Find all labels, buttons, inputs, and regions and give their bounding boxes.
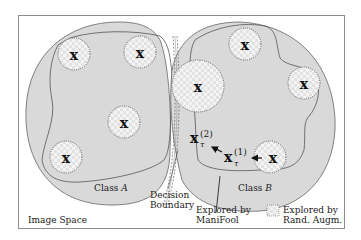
xt1-sup: (1) — [234, 147, 247, 157]
rand-augm-circle-b-large: x — [172, 60, 224, 112]
xt2-sup: (2) — [200, 129, 213, 139]
sample-x: x — [120, 115, 129, 131]
sample-x: x — [70, 47, 79, 63]
rand-augm-circle-a4: x — [50, 141, 82, 173]
sample-x: x — [62, 150, 71, 166]
rand-augm-circle-b2: x — [288, 67, 320, 99]
rand-augm-circle-a3: x — [108, 106, 140, 138]
manifool-label-line2: ManiFool — [196, 215, 239, 225]
sample-x: x — [300, 76, 309, 92]
decision-boundary-label-line2: Boundary — [150, 200, 195, 210]
sample-x: x — [241, 37, 250, 53]
legend-label-line2: Rand. Augm. — [283, 215, 342, 225]
diagram-canvas: x x x x x x x x x (2) τ x (1) τ — [0, 0, 361, 240]
class-a-label: Class A — [94, 183, 128, 193]
manifool-label-line1: Explored by — [196, 205, 252, 215]
rand-augm-circle-a2: x — [124, 36, 156, 68]
legend-swatch-icon — [267, 205, 279, 216]
xt2-sub: τ — [200, 140, 205, 149]
decision-boundary-label-line1: Decision — [150, 190, 189, 200]
rand-augm-circle-b3: x — [254, 141, 286, 173]
rand-augm-circle-b1: x — [229, 28, 261, 60]
sample-x: x — [269, 150, 278, 166]
sample-x: x — [194, 79, 203, 95]
legend-label-line1: Explored by — [283, 205, 339, 215]
xt1-base: x — [224, 149, 233, 165]
xt1-sub: τ — [234, 159, 239, 168]
class-b-label: Class B — [238, 183, 272, 193]
image-space-label: Image Space — [28, 215, 87, 225]
sample-x: x — [136, 45, 145, 61]
rand-augm-circle-a1: x — [58, 38, 90, 70]
xt2-base: x — [190, 130, 199, 146]
